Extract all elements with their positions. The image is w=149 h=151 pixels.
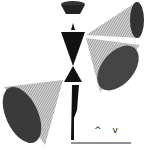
right-lower-cone <box>86 38 147 98</box>
torso-lower <box>64 66 82 82</box>
torso-upper <box>61 32 85 66</box>
leg-shape <box>71 85 79 140</box>
head-shape <box>61 1 85 14</box>
right-upper-cone <box>86 2 144 38</box>
caret-marks: ^ v <box>94 125 122 135</box>
neck-shape <box>71 23 75 30</box>
left-cone <box>0 80 63 149</box>
figure-illustration <box>0 0 149 151</box>
